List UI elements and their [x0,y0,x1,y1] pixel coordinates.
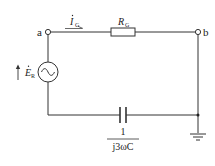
source-label: E R [24,66,35,79]
node-b-terminal [195,29,200,34]
junction-dot [197,114,200,117]
current-symbol: I [69,16,74,27]
impedance-denominator: j3ωC [111,141,133,152]
voltage-arrow-icon [16,65,20,81]
resistor-rg [111,28,135,36]
node-a-label: a [37,26,42,38]
ground-icon [190,134,206,140]
circuit-diagram: a b I G R G E R [0,0,215,166]
source-subscript: R [31,73,35,79]
resistor-symbol: R [117,16,124,27]
phasor-dot [28,66,29,67]
resistor-label: R G [117,16,130,28]
node-b-label: b [203,26,209,38]
resistor-subscript: G [125,22,130,28]
capacitor-impedance-label: 1 j3ωC [107,126,139,152]
phasor-dot [72,15,73,16]
current-arrow-icon [65,26,83,28]
impedance-numerator: 1 [121,126,126,137]
node-a-terminal [45,29,50,34]
